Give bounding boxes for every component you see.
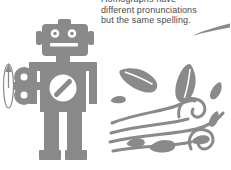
leaves [110, 57, 226, 156]
leaf-bottom-2 [149, 136, 176, 156]
wind-up-robot-icon [4, 19, 98, 160]
illustration-canvas [0, 0, 230, 170]
robot-ear-right [88, 31, 94, 45]
leaf-tiny-left [110, 94, 126, 106]
robot-pupil-right [70, 32, 73, 35]
leaf-bottom-3 [191, 133, 210, 146]
robot-arm-left [29, 70, 37, 104]
robot-ear-left [36, 31, 42, 45]
robot-arm-right [89, 70, 97, 104]
robot-pupil-left [53, 32, 56, 35]
robot-foot-left [39, 150, 61, 160]
page: Homographs have different pronunciations… [0, 0, 230, 170]
leaf-large-left [117, 57, 161, 101]
robot-mouth [50, 43, 78, 47]
robot-head [42, 24, 88, 56]
robot-neck [56, 55, 70, 63]
curved-leader-line-icon [193, 24, 231, 37]
robot-shoulders [29, 62, 97, 71]
robot-foot-right [65, 150, 87, 160]
winding-rotation-arrow-icon [4, 63, 14, 108]
wind-blowing-leaves-icon [110, 57, 227, 156]
robot-leg-right [67, 112, 82, 151]
wind-up-key-icon [13, 67, 42, 105]
leaf-small-right-edge [206, 81, 226, 101]
robot-leg-left [44, 112, 59, 151]
